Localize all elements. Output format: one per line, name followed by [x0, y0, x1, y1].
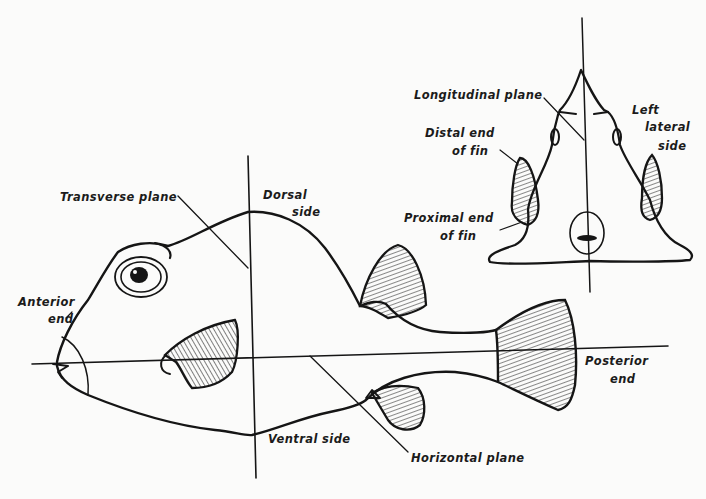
- label-transverse-plane: Transverse plane: [60, 191, 177, 204]
- front-right-fin: [641, 155, 662, 220]
- front-left-fin: [512, 158, 539, 225]
- label-proximal-end-line1: Proximal end: [404, 212, 494, 225]
- fish-body-outline: [57, 212, 496, 362]
- label-posterior-end-line2: end: [610, 373, 635, 386]
- transverse-plane-leader: [178, 196, 248, 268]
- label-horizontal-plane: Horizontal plane: [411, 452, 524, 465]
- label-left-lateral-side-line1: Left: [632, 104, 659, 117]
- pectoral-fin: [165, 320, 238, 388]
- transverse-plane-line: [248, 156, 256, 478]
- anal-fin: [372, 386, 424, 430]
- label-distal-end-line2: of fin: [452, 145, 488, 158]
- side-view-fish: [32, 156, 668, 478]
- dorsal-fin: [360, 245, 426, 318]
- fish-orientation-diagram: Transverse plane Dorsal side Anterior en…: [0, 0, 706, 499]
- label-longitudinal-plane: Longitudinal plane: [414, 89, 542, 102]
- label-anterior-end-line1: Anterior: [18, 296, 75, 309]
- proximal-end-leader: [500, 222, 522, 230]
- caudal-fin: [496, 300, 576, 410]
- label-distal-end-line1: Distal end: [425, 127, 495, 140]
- fish-eye: [115, 257, 167, 297]
- label-proximal-end-line2: of fin: [440, 230, 476, 243]
- label-left-lateral-side-line2: lateral: [645, 121, 690, 134]
- longitudinal-plane-line: [582, 18, 590, 292]
- label-left-lateral-side-line3: side: [658, 140, 686, 153]
- distal-end-leader: [500, 150, 518, 164]
- fish-mouth: [53, 364, 68, 378]
- label-dorsal-side-line1: Dorsal: [263, 189, 307, 202]
- front-view-fish: [489, 18, 692, 292]
- fish-body-outline-lower: [57, 366, 498, 435]
- label-dorsal-side-line2: side: [292, 206, 320, 219]
- diagram-drawing: [0, 0, 706, 499]
- label-posterior-end-line1: Posterior: [585, 355, 648, 368]
- label-ventral-side: Ventral side: [268, 433, 351, 446]
- front-mouth: [570, 212, 604, 254]
- label-anterior-end-line2: end: [48, 313, 73, 326]
